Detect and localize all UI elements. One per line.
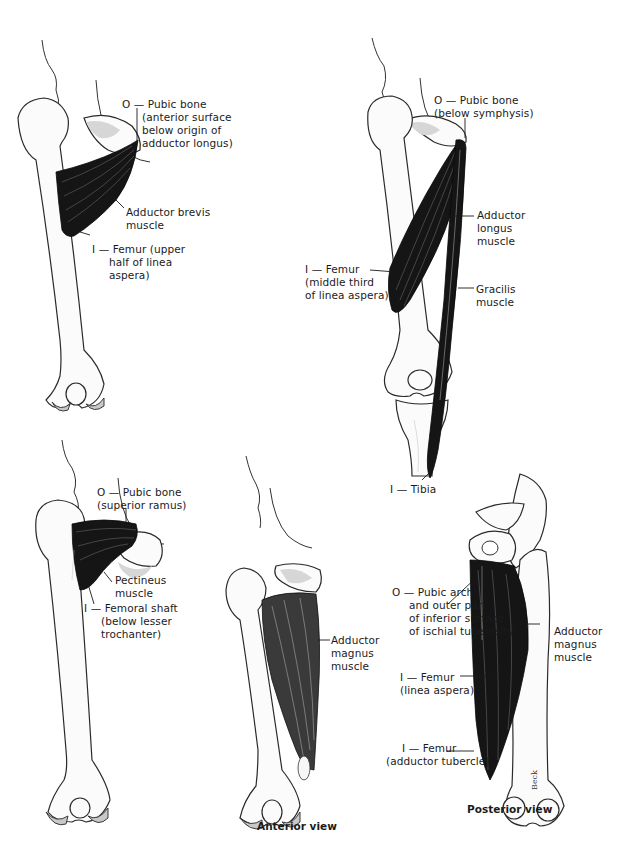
label-gracilis-insertion: I — Tibia [390,483,436,496]
caption-posterior-view: Posterior view [467,803,552,815]
panel-adductor-magnus-anterior-drawing [226,456,330,829]
label-adductor-magnus-posterior-muscle: Adductor magnus muscle [554,625,602,664]
label-pectineus-origin: O — Pubic bone (superior ramus) [97,486,186,512]
label-adductor-longus-origin: O — Pubic bone (below symphysis) [434,94,534,120]
label-pectineus-insertion: I — Femoral shaft (below lesser trochant… [84,602,178,641]
label-adductor-magnus-insertion-tubercle: I — Femur (adductor tubercle) [386,742,490,768]
illustration-layer [0,0,618,849]
caption-anterior-view: Anterior view [257,820,337,832]
label-adductor-brevis-insertion: I — Femur (upper half of linea aspera) [92,243,185,282]
label-adductor-longus-muscle: Adductor longus muscle [477,209,525,248]
panel-adductor-magnus-posterior-drawing [446,474,564,826]
label-adductor-magnus-posterior-origin: O — Pubic arch and outer part of inferio… [392,586,514,638]
artist-signature: Beck [530,770,539,790]
label-gracilis-muscle: Gracilis muscle [476,283,516,309]
label-pectineus-muscle: Pectineus muscle [115,574,166,600]
label-adductor-longus-insertion: I — Femur (middle third of linea aspera) [305,263,389,302]
label-adductor-brevis-origin: O — Pubic bone (anterior surface below o… [122,98,233,150]
label-adductor-brevis-muscle: Adductor brevis muscle [126,206,210,232]
label-adductor-magnus-insertion-linea-aspera: I — Femur (linea aspera) [400,671,474,697]
adductor-muscles-figure: O — Pubic bone (anterior surface below o… [0,0,618,849]
label-adductor-magnus-anterior-muscle: Adductor magnus muscle [331,634,379,673]
